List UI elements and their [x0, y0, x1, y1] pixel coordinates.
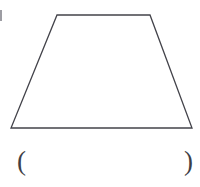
figure-container: ( ) — [0, 0, 200, 187]
answer-blank-input[interactable] — [30, 150, 182, 176]
trapezoid-outline — [11, 15, 192, 128]
answer-open-paren: ( — [17, 148, 26, 175]
clipped-stroke-fragment-icon — [0, 10, 2, 21]
answer-close-paren: ) — [184, 148, 193, 175]
